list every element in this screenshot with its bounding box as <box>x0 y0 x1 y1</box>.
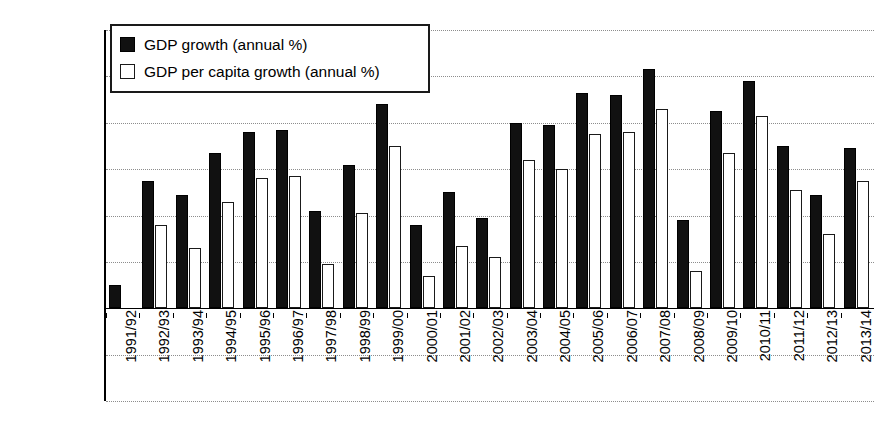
bar <box>322 264 334 308</box>
bar <box>410 225 422 308</box>
x-tick-label: 1996/97 <box>291 310 305 400</box>
bar <box>356 213 368 308</box>
bar <box>543 125 555 308</box>
bar <box>389 146 401 308</box>
bar <box>710 111 722 308</box>
x-tick-label: 2006/07 <box>625 310 639 400</box>
bar <box>109 285 121 308</box>
x-tick-label: 1993/94 <box>191 310 205 400</box>
bar <box>690 271 702 308</box>
x-tick-label: 2002/03 <box>491 310 505 400</box>
x-tick-label: 2011/12 <box>792 310 806 400</box>
legend-item-gdp-growth: GDP growth (annual %) <box>120 31 420 58</box>
x-tick-label: 1991/92 <box>124 310 138 400</box>
bar <box>343 165 355 309</box>
bar <box>756 116 768 308</box>
bar <box>222 202 234 309</box>
bar <box>309 211 321 308</box>
bar <box>810 195 822 309</box>
bar <box>423 276 435 308</box>
x-tick-label: 2008/09 <box>692 310 706 400</box>
x-tick-label: 1997/98 <box>324 310 338 400</box>
x-tick-label: 2003/04 <box>525 310 539 400</box>
bar <box>576 93 588 309</box>
bar <box>610 95 622 308</box>
x-tick-label: 2000/01 <box>425 310 439 400</box>
bar <box>489 257 501 308</box>
bar <box>589 134 601 308</box>
bar <box>510 123 522 309</box>
bar <box>677 220 689 308</box>
bar <box>623 132 635 308</box>
legend-label-gdp-growth: GDP growth (annual %) <box>144 36 307 54</box>
bar <box>556 169 568 308</box>
x-tick-label: 2004/05 <box>558 310 572 400</box>
bar <box>142 181 154 309</box>
bar <box>643 69 655 308</box>
legend-item-gdp-per-capita-growth: GDP per capita growth (annual %) <box>120 58 420 85</box>
x-tick-label: 1992/93 <box>157 310 171 400</box>
x-tick-label: 2007/08 <box>658 310 672 400</box>
x-tick-label: 2010/11 <box>758 310 772 400</box>
legend-swatch-white-icon <box>120 64 135 79</box>
bar <box>209 153 221 308</box>
bar <box>823 234 835 308</box>
bar <box>256 178 268 308</box>
x-tick-label: 1995/96 <box>258 310 272 400</box>
legend-label-gdp-per-capita-growth: GDP per capita growth (annual %) <box>144 63 380 81</box>
x-tick-label: 1999/00 <box>391 310 405 400</box>
bar <box>443 192 455 308</box>
bar <box>777 146 789 308</box>
bar <box>243 132 255 308</box>
bar <box>743 81 755 308</box>
legend-swatch-black-icon <box>120 37 135 52</box>
bar <box>176 195 188 309</box>
bar <box>476 218 488 308</box>
bar <box>289 176 301 308</box>
bar <box>276 130 288 309</box>
x-tick-label: 2001/02 <box>458 310 472 400</box>
x-tick-label: 2013/14 <box>859 310 873 400</box>
bar <box>523 160 535 308</box>
bar <box>790 190 802 308</box>
bar <box>857 181 869 309</box>
x-tick-label: 1998/99 <box>358 310 372 400</box>
gdp-growth-bar-chart: GDP growth (%) 121086420–2–4 1991/921992… <box>0 0 885 433</box>
bar <box>155 225 167 308</box>
chart-legend: GDP growth (annual %) GDP per capita gro… <box>110 24 430 93</box>
x-tick-label: 1994/95 <box>224 310 238 400</box>
bar <box>844 148 856 308</box>
bar <box>723 153 735 308</box>
x-tick-label: 2009/10 <box>725 310 739 400</box>
bar <box>376 104 388 308</box>
x-tick-label: 2005/06 <box>591 310 605 400</box>
bar <box>656 109 668 308</box>
bar <box>456 246 468 309</box>
x-axis-tick-labels: 1991/921992/931993/941994/951995/961996/… <box>106 312 876 422</box>
x-tick-label: 2012/13 <box>825 310 839 400</box>
bar <box>189 248 201 308</box>
